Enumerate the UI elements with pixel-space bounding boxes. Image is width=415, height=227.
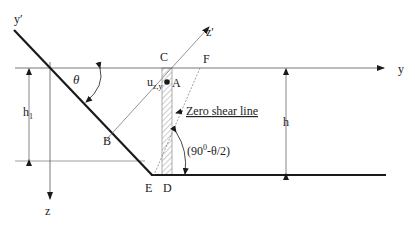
label-h1: h1 (23, 105, 33, 121)
zero-shear-pointer (176, 111, 183, 113)
label-zero-shear-line: Zero shear line (186, 104, 258, 118)
label-c: C (160, 50, 168, 64)
point-a-marker (164, 79, 170, 85)
shear-diagram: y′ y z z′ θ h1 h B C A F E D uz,y Zero s… (0, 0, 415, 227)
label-u-zy: uz,y (147, 75, 163, 91)
label-b: B (103, 134, 111, 148)
label-e: E (145, 181, 152, 195)
slope-boundary (14, 30, 152, 175)
half-angle-arc (176, 132, 186, 174)
label-half-angle: (900-θ/2) (187, 143, 230, 158)
label-z-prime: z′ (206, 25, 214, 39)
theta-angle-arc (86, 68, 101, 102)
label-f: F (203, 52, 210, 66)
label-h: h (283, 115, 289, 129)
label-d: D (163, 181, 172, 195)
label-y: y (398, 62, 404, 76)
label-theta: θ (73, 72, 80, 87)
label-z: z (45, 204, 50, 218)
label-a: A (172, 76, 181, 90)
label-y-prime: y′ (14, 12, 23, 26)
